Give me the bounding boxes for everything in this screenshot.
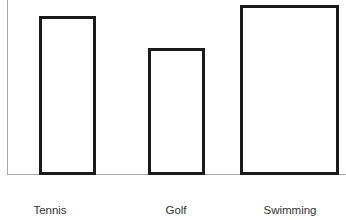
bar-golf xyxy=(148,48,205,175)
x-tick-label-tennis: Tennis xyxy=(10,203,90,218)
plot-area xyxy=(0,0,346,175)
x-axis-tick-labels: Tennis Golf Swimming xyxy=(0,203,346,220)
bar-swimming xyxy=(240,5,339,175)
x-tick-label-golf: Golf xyxy=(136,203,216,218)
bar-tennis xyxy=(39,16,96,175)
x-tick-label-swimming: Swimming xyxy=(250,203,330,218)
bar-chart: Tennis Golf Swimming xyxy=(0,0,346,220)
